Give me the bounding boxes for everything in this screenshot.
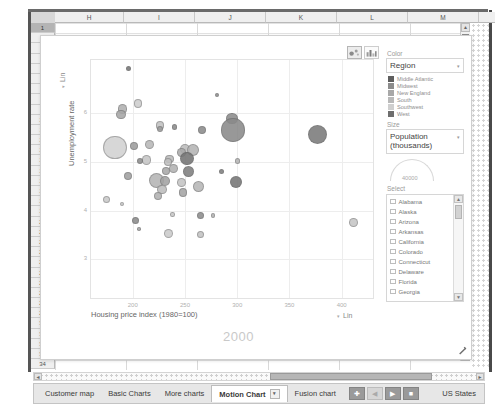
next-sheet-button[interactable]: ▶: [385, 387, 401, 400]
state-list-item[interactable]: Arizona: [390, 217, 453, 227]
data-bubble[interactable]: [157, 126, 164, 133]
state-checkbox[interactable]: [390, 219, 396, 225]
horizontal-scrollbar[interactable]: ◄ ►: [33, 372, 485, 381]
legend-item[interactable]: South: [388, 97, 464, 103]
state-list-item[interactable]: Connecticut: [390, 257, 453, 267]
data-bubble[interactable]: [120, 202, 124, 206]
data-bubble[interactable]: [197, 231, 204, 238]
data-bubble[interactable]: [183, 166, 194, 177]
chart-type-toolbar[interactable]: [347, 46, 379, 59]
data-bubble[interactable]: [219, 169, 224, 174]
column-header-l[interactable]: L: [337, 12, 408, 23]
state-checkbox[interactable]: [390, 249, 396, 255]
plot-area[interactable]: [90, 59, 374, 299]
data-bubble[interactable]: [132, 217, 139, 224]
data-bubble[interactable]: [142, 155, 151, 164]
data-bubble[interactable]: [221, 118, 244, 141]
state-list-item[interactable]: Arkansas: [390, 227, 453, 237]
state-list-item[interactable]: Delaware: [390, 267, 453, 277]
data-bubble[interactable]: [164, 229, 173, 238]
sheet-tab-fusion-chart[interactable]: Fusion chart: [288, 386, 343, 401]
bar-chart-icon[interactable]: [364, 46, 379, 59]
data-bubble[interactable]: [116, 110, 126, 120]
scroll-left-icon[interactable]: ◄: [34, 373, 42, 380]
row-header-34[interactable]: 34: [31, 359, 55, 369]
state-checkbox[interactable]: [390, 269, 396, 275]
data-bubble[interactable]: [198, 126, 206, 134]
data-bubble[interactable]: [137, 227, 141, 231]
bubble-chart-icon[interactable]: [347, 46, 362, 59]
data-bubble[interactable]: [197, 212, 204, 219]
x-axis-scale-selector[interactable]: ▾ Lin: [337, 312, 352, 319]
sheet-tab-more-charts[interactable]: More charts: [158, 386, 212, 401]
state-list-item[interactable]: Colorado: [390, 247, 453, 257]
data-bubble[interactable]: [193, 181, 204, 192]
data-bubble[interactable]: [235, 158, 240, 163]
data-bubble[interactable]: [215, 93, 219, 97]
data-bubble[interactable]: [172, 124, 177, 129]
data-bubble[interactable]: [134, 99, 143, 108]
data-bubble[interactable]: [130, 142, 138, 150]
column-header-h[interactable]: H: [55, 12, 124, 23]
legend-item[interactable]: Middle Atlantic: [388, 76, 464, 82]
state-checkbox[interactable]: [390, 209, 396, 215]
state-checkbox[interactable]: [390, 199, 396, 205]
state-checkbox[interactable]: [390, 239, 396, 245]
data-bubble[interactable]: [179, 188, 188, 197]
state-select-list[interactable]: AlabamaAlaskaArizonaArkansasCaliforniaCo…: [386, 194, 464, 302]
data-bubble[interactable]: [162, 167, 170, 175]
state-list-scroll-up-icon[interactable]: ▲: [454, 195, 463, 203]
data-bubble[interactable]: [211, 213, 215, 217]
all-sheets-button[interactable]: ■: [403, 387, 419, 400]
prev-sheet-button[interactable]: ◀: [367, 387, 383, 400]
data-bubble[interactable]: [169, 164, 178, 173]
state-list-item[interactable]: Alaska: [390, 207, 453, 217]
state-list-item[interactable]: Florida: [390, 277, 453, 287]
state-checkbox[interactable]: [390, 279, 396, 285]
state-list-item[interactable]: Alabama: [390, 197, 453, 207]
sheet-tab-basic-charts[interactable]: Basic Charts: [101, 386, 158, 401]
data-bubble[interactable]: [124, 172, 132, 180]
state-list-scroll-down-icon[interactable]: ▼: [454, 293, 463, 301]
data-bubble[interactable]: [103, 196, 110, 203]
data-bubble[interactable]: [154, 192, 162, 200]
data-bubble[interactable]: [170, 212, 174, 216]
sheet-tab-bar: Customer mapBasic ChartsMore chartsMotio…: [33, 383, 485, 404]
add-sheet-button[interactable]: ✚: [349, 387, 365, 400]
state-list-item[interactable]: Georgia: [390, 287, 453, 297]
state-checkbox[interactable]: [390, 289, 396, 295]
legend-item[interactable]: New England: [388, 90, 464, 96]
data-bubble[interactable]: [103, 136, 126, 159]
sheet-tab-motion-chart[interactable]: Motion Chart▾: [211, 385, 287, 402]
legend-item[interactable]: Southwest: [388, 104, 464, 110]
data-bubble[interactable]: [308, 125, 327, 144]
legend-item[interactable]: Midwest: [388, 83, 464, 89]
size-dimension-select[interactable]: Population (thousands) ▾: [386, 129, 464, 153]
scroll-up-icon[interactable]: ▲: [461, 23, 470, 32]
state-checkbox[interactable]: [390, 229, 396, 235]
column-header-m[interactable]: M: [408, 12, 479, 23]
motion-chart-window[interactable]: ▾ Lin Unemployment rate 200250300350400 …: [40, 35, 472, 360]
legend-item[interactable]: West: [388, 111, 464, 117]
size-gauge[interactable]: 40000: [390, 159, 436, 183]
state-checkbox[interactable]: [390, 259, 396, 265]
state-list-scroll-thumb[interactable]: [455, 205, 462, 219]
resize-grip-icon[interactable]: [458, 346, 467, 355]
sheet-tab-customer-map[interactable]: Customer map: [38, 386, 101, 401]
column-header-j[interactable]: J: [195, 12, 266, 23]
row-header-1[interactable]: 1: [31, 23, 55, 33]
tab-dropdown-caret-icon[interactable]: ▾: [270, 389, 280, 399]
data-bubble[interactable]: [349, 218, 358, 227]
state-list-item[interactable]: California: [390, 237, 453, 247]
horizontal-scroll-thumb[interactable]: [270, 373, 432, 380]
column-header-i[interactable]: I: [124, 12, 195, 23]
data-bubble[interactable]: [145, 140, 154, 149]
data-bubble[interactable]: [180, 152, 193, 165]
column-header-k[interactable]: K: [266, 12, 337, 23]
scroll-right-icon[interactable]: ►: [476, 373, 484, 380]
data-bubble[interactable]: [230, 176, 242, 188]
color-dimension-select[interactable]: Region ▾: [386, 58, 464, 73]
state-list-scrollbar[interactable]: ▲ ▼: [453, 195, 463, 301]
data-bubble[interactable]: [126, 66, 131, 71]
y-axis-scale-selector[interactable]: ▾ Lin: [59, 73, 66, 88]
